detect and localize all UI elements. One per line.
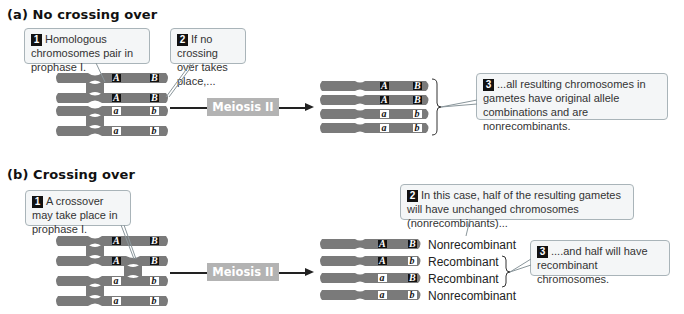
step-number-badge: 2 bbox=[177, 34, 188, 46]
panel-a-homolog-pair-bottom bbox=[56, 106, 168, 136]
process-arrow-line bbox=[279, 107, 307, 109]
bracket bbox=[502, 256, 510, 287]
meiosis-ii-box: Meiosis II bbox=[207, 98, 279, 116]
svg-text:A: A bbox=[112, 92, 120, 103]
svg-text:A: A bbox=[380, 94, 388, 105]
panel-b-homolog-pair-top bbox=[56, 236, 168, 266]
panel-b-allele-markers: A B A B a b a b bbox=[112, 235, 159, 306]
svg-text:A: A bbox=[378, 238, 386, 249]
panel-a-homolog-pair-top bbox=[56, 73, 168, 103]
svg-text:a: a bbox=[382, 108, 387, 119]
gamete-type-label: Nonrecombinant bbox=[428, 238, 516, 252]
panel-a-allele-markers: A B A B a b a b bbox=[112, 72, 159, 136]
svg-text:a: a bbox=[380, 289, 385, 300]
svg-text:a: a bbox=[114, 275, 119, 286]
step-number-badge: 1 bbox=[32, 196, 43, 208]
panel-a-callout-3: 3...all resulting chromosomes in gametes… bbox=[476, 73, 668, 120]
callout-text: Homologous chromosomes pair in prophase … bbox=[31, 33, 133, 73]
step-number-badge: 3 bbox=[537, 246, 548, 258]
svg-text:B: B bbox=[408, 272, 416, 283]
callout-text: A crossover may take place in prophase I… bbox=[32, 195, 118, 235]
svg-text:a: a bbox=[114, 105, 119, 116]
step-number-badge: 3 bbox=[483, 79, 494, 91]
svg-text:B: B bbox=[150, 255, 158, 266]
svg-text:b: b bbox=[152, 275, 157, 286]
panel-b-homolog-pair-bottom bbox=[56, 263, 168, 306]
arrow-right-icon bbox=[305, 268, 314, 276]
step-number-badge: 1 bbox=[31, 34, 42, 46]
svg-text:b: b bbox=[415, 122, 420, 133]
callout-text: ...all resulting chromosomes in gametes … bbox=[483, 78, 646, 132]
svg-text:B: B bbox=[413, 80, 421, 91]
callout-pointer bbox=[124, 225, 136, 259]
gamete-type-label: Recombinant bbox=[428, 255, 499, 269]
svg-text:A: A bbox=[112, 255, 120, 266]
svg-text:B: B bbox=[413, 94, 421, 105]
process-arrow-line bbox=[279, 272, 307, 274]
step-number-badge: 2 bbox=[407, 190, 418, 202]
svg-text:A: A bbox=[378, 255, 386, 266]
svg-text:A: A bbox=[380, 80, 388, 91]
process-line bbox=[170, 107, 207, 109]
process-line bbox=[170, 272, 207, 274]
svg-text:B: B bbox=[150, 92, 158, 103]
svg-text:B: B bbox=[150, 72, 158, 83]
svg-text:b: b bbox=[415, 108, 420, 119]
panel-b-gametes: A B A b a B a b bbox=[320, 238, 421, 300]
svg-text:a: a bbox=[114, 295, 119, 306]
svg-text:A: A bbox=[112, 72, 120, 83]
callout-pointer bbox=[96, 63, 105, 82]
svg-text:b: b bbox=[152, 125, 157, 136]
gamete-type-label: Nonrecombinant bbox=[428, 289, 516, 303]
panel-a-callout-2: 2If no crossing over takes place,... bbox=[170, 28, 246, 64]
panel-b-callout-2: 2In this case, half of the resulting gam… bbox=[400, 184, 634, 220]
svg-text:a: a bbox=[382, 122, 387, 133]
meiosis-ii-box: Meiosis II bbox=[207, 263, 279, 281]
panel-b-title: (b) Crossing over bbox=[7, 167, 135, 182]
svg-text:A: A bbox=[112, 235, 120, 246]
gamete-type-label: Recombinant bbox=[428, 272, 499, 286]
svg-text:b: b bbox=[410, 255, 415, 266]
panel-a-title: (a) No crossing over bbox=[7, 7, 157, 22]
arrow-right-icon bbox=[305, 103, 314, 111]
callout-pointer bbox=[121, 225, 134, 259]
svg-text:b: b bbox=[152, 295, 157, 306]
svg-text:b: b bbox=[152, 105, 157, 116]
callout-text: ....and half will have recombinant chrom… bbox=[537, 245, 648, 285]
panel-a-callout-1: 1Homologous chromosomes pair in prophase… bbox=[24, 28, 150, 64]
bracket bbox=[432, 79, 441, 135]
svg-text:B: B bbox=[408, 238, 416, 249]
callout-text: In this case, half of the resulting game… bbox=[407, 189, 621, 229]
svg-text:a: a bbox=[380, 272, 385, 283]
svg-text:b: b bbox=[410, 289, 415, 300]
panel-b-callout-3: 3....and half will have recombinant chro… bbox=[530, 240, 670, 276]
svg-text:a: a bbox=[114, 125, 119, 136]
svg-text:B: B bbox=[150, 235, 158, 246]
panel-a-gametes: A B A B a b a b bbox=[320, 80, 429, 133]
panel-b-callout-1: 1A crossover may take place in prophase … bbox=[25, 190, 131, 226]
